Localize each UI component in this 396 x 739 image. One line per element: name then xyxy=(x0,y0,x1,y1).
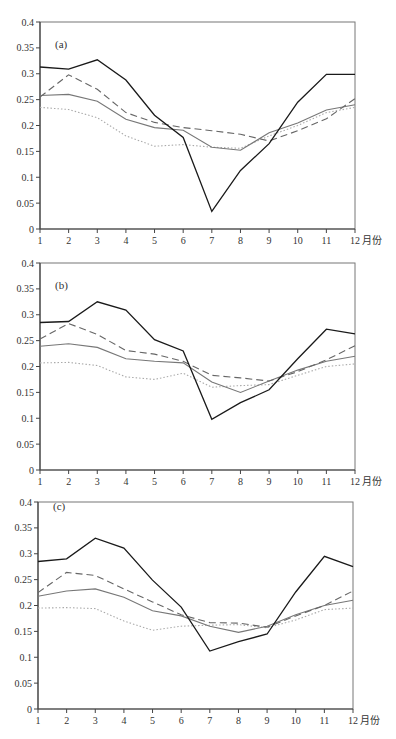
y-tick-label: 0.35 xyxy=(17,42,35,53)
y-tick-label: 0.15 xyxy=(17,146,35,157)
y-tick-label: 0.4 xyxy=(20,497,33,508)
panel-label: (a) xyxy=(55,38,68,51)
series-line-gray-dashed xyxy=(38,572,353,627)
series-line-black-solid xyxy=(40,302,355,420)
x-tick-label: 12 xyxy=(350,476,360,487)
y-tick-label: 0.2 xyxy=(22,120,35,131)
x-tick-label: 8 xyxy=(236,715,241,726)
plot-frame xyxy=(40,22,355,229)
y-tick-label: 0.25 xyxy=(17,94,35,105)
y-tick-label: 0.4 xyxy=(22,258,35,269)
series-line-black-solid xyxy=(40,60,355,212)
plot-frame xyxy=(38,502,353,709)
x-axis-label: 月份 xyxy=(360,715,380,726)
x-tick-label: 12 xyxy=(348,715,358,726)
y-tick-label: 0.25 xyxy=(15,574,33,585)
y-tick-label: 0.4 xyxy=(22,17,35,28)
chart-canvas: 00.050.10.150.20.250.30.350.412345678910… xyxy=(0,0,396,739)
x-axis-label: 月份 xyxy=(362,476,382,487)
y-tick-label: 0.25 xyxy=(17,335,35,346)
x-tick-label: 5 xyxy=(150,715,155,726)
x-tick-label: 10 xyxy=(291,715,301,726)
x-tick-label: 10 xyxy=(293,235,303,246)
y-tick-label: 0.35 xyxy=(17,283,35,294)
x-tick-label: 9 xyxy=(267,476,272,487)
x-tick-label: 2 xyxy=(66,476,71,487)
x-tick-label: 11 xyxy=(322,476,332,487)
x-tick-label: 2 xyxy=(64,715,69,726)
y-tick-label: 0.1 xyxy=(22,413,35,424)
panel-label: (b) xyxy=(55,279,68,292)
x-axis-label: 月份 xyxy=(362,235,382,246)
x-tick-label: 7 xyxy=(207,715,212,726)
y-tick-label: 0.35 xyxy=(15,522,33,533)
x-tick-label: 4 xyxy=(123,476,128,487)
x-tick-label: 5 xyxy=(152,235,157,246)
y-tick-label: 0.05 xyxy=(17,198,35,209)
x-tick-label: 10 xyxy=(293,476,303,487)
y-tick-label: 0.2 xyxy=(20,600,33,611)
y-tick-label: 0 xyxy=(27,704,32,715)
x-tick-label: 11 xyxy=(322,235,332,246)
x-tick-label: 8 xyxy=(238,235,243,246)
x-tick-label: 1 xyxy=(38,235,43,246)
x-tick-label: 7 xyxy=(209,235,214,246)
y-tick-label: 0.1 xyxy=(22,172,35,183)
figure-three-panel-line-charts: 00.050.10.150.20.250.30.350.412345678910… xyxy=(0,0,396,739)
x-tick-label: 11 xyxy=(320,715,330,726)
x-tick-label: 2 xyxy=(66,235,71,246)
y-tick-label: 0.3 xyxy=(20,548,33,559)
x-tick-label: 1 xyxy=(36,715,41,726)
x-tick-label: 6 xyxy=(181,235,186,246)
y-tick-label: 0 xyxy=(29,224,34,235)
x-tick-label: 5 xyxy=(152,476,157,487)
y-tick-label: 0 xyxy=(29,465,34,476)
x-tick-label: 3 xyxy=(93,715,98,726)
series-line-light-dotted xyxy=(40,107,355,148)
y-tick-label: 0.05 xyxy=(17,439,35,450)
series-line-black-solid xyxy=(38,538,353,651)
x-tick-label: 6 xyxy=(181,476,186,487)
y-tick-label: 0.3 xyxy=(22,68,35,79)
panel-label: (c) xyxy=(53,500,66,513)
x-tick-label: 6 xyxy=(179,715,184,726)
chart-panel-a: 00.050.10.150.20.250.30.350.412345678910… xyxy=(17,17,383,247)
x-tick-label: 3 xyxy=(95,235,100,246)
x-tick-label: 4 xyxy=(123,235,128,246)
y-tick-label: 0.05 xyxy=(15,678,33,689)
y-tick-label: 0.1 xyxy=(20,652,33,663)
x-tick-label: 1 xyxy=(38,476,43,487)
series-line-gray-solid xyxy=(40,94,355,150)
x-tick-label: 4 xyxy=(121,715,126,726)
x-tick-label: 9 xyxy=(267,235,272,246)
x-tick-label: 3 xyxy=(95,476,100,487)
y-tick-label: 0.15 xyxy=(17,387,35,398)
y-tick-label: 0.15 xyxy=(15,626,33,637)
x-tick-label: 12 xyxy=(350,235,360,246)
chart-panel-b: 00.050.10.150.20.250.30.350.412345678910… xyxy=(17,258,383,488)
x-tick-label: 8 xyxy=(238,476,243,487)
y-tick-label: 0.2 xyxy=(22,361,35,372)
series-line-gray-dashed xyxy=(40,75,355,141)
x-tick-label: 7 xyxy=(209,476,214,487)
x-tick-label: 9 xyxy=(265,715,270,726)
chart-panel-c: 00.050.10.150.20.250.30.350.412345678910… xyxy=(15,497,381,727)
y-tick-label: 0.3 xyxy=(22,309,35,320)
